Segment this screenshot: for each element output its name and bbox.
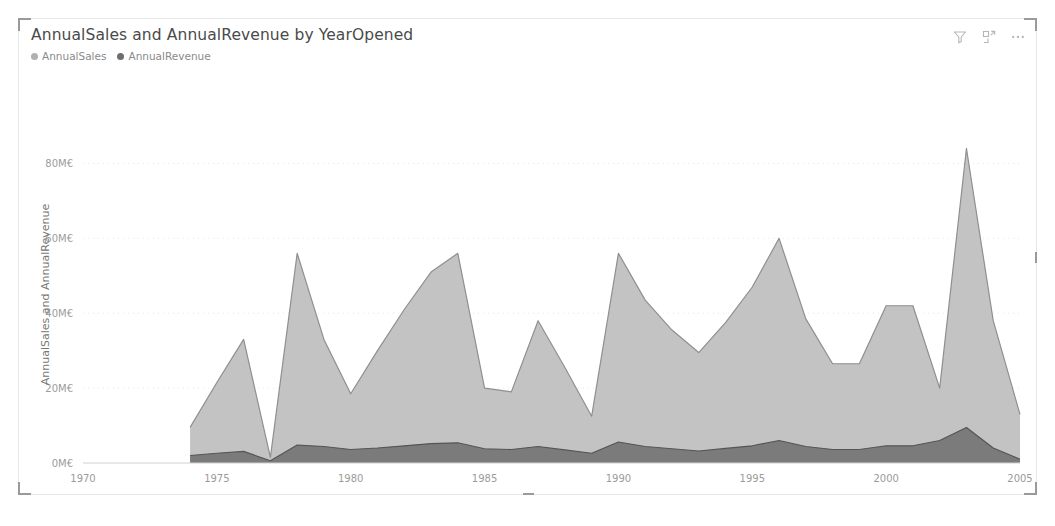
x-tick-label: 1985 xyxy=(472,473,497,484)
area-chart-svg: 0M€20M€40M€60M€80M€ 19701975198019851990… xyxy=(19,19,1038,496)
x-tick-label: 2005 xyxy=(1007,473,1032,484)
y-tick-label: 0M€ xyxy=(52,458,73,469)
area-series xyxy=(190,148,1020,463)
x-tick-label: 1980 xyxy=(338,473,363,484)
x-tick-label: 1970 xyxy=(70,473,95,484)
y-tick-label: 80M€ xyxy=(45,158,73,169)
x-tick-label: 1975 xyxy=(204,473,229,484)
x-tick-label: 1990 xyxy=(606,473,631,484)
x-tick-label: 1995 xyxy=(740,473,765,484)
x-tick-label: 2000 xyxy=(873,473,898,484)
y-axis-title: AnnualSales and AnnualRevenue xyxy=(39,204,52,386)
power-bi-visual-container[interactable]: AnnualSales and AnnualRevenue by YearOpe… xyxy=(18,18,1037,495)
x-axis-ticks: 19701975198019851990199520002005 xyxy=(70,473,1032,484)
chart-plot-area[interactable]: 0M€20M€40M€60M€80M€ 19701975198019851990… xyxy=(19,19,1038,496)
